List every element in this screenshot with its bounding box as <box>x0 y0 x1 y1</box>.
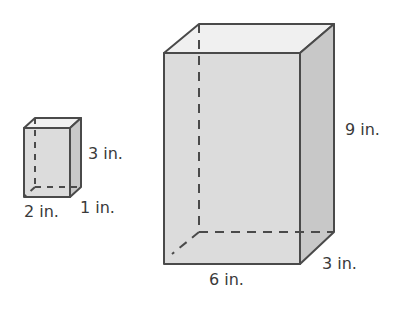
small-prism-length-label: 2 in. <box>24 204 59 220</box>
large-prism-width-label: 3 in. <box>322 256 357 272</box>
large-prism-height-label: 9 in. <box>345 122 380 138</box>
small-prism <box>24 118 81 197</box>
small-prism-width-label: 1 in. <box>80 200 115 216</box>
large-prism <box>164 24 334 264</box>
small-prism-height-label: 3 in. <box>88 146 123 162</box>
large-prism-length-label: 6 in. <box>209 272 244 288</box>
large-prism-side-face <box>300 24 334 264</box>
small-prism-side-face <box>70 118 81 197</box>
